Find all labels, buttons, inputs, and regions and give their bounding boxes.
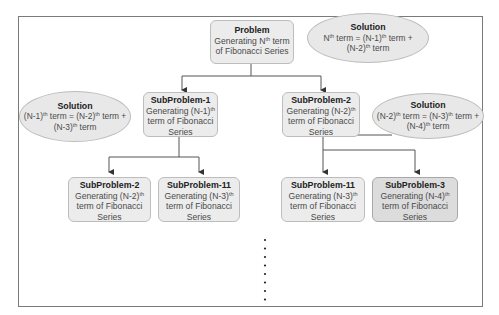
subproblem-line3: Series xyxy=(97,212,121,222)
subproblem-title: SubProblem-2 xyxy=(283,95,359,106)
solution-left-line1: (N-1)th term = (N-2)th term + xyxy=(20,111,130,122)
solution-left-line2: (N-3)th term xyxy=(20,122,130,133)
subproblem-line1: Generating (N-1)th xyxy=(146,106,215,116)
subproblem-3-node: SubProblem-3 Generating (N-4)th term of … xyxy=(372,177,458,222)
subproblem-line2: term of Fibonacci xyxy=(166,201,232,211)
subproblem-line1: Generating (N-3)th xyxy=(288,191,357,201)
subproblem-line2: term of Fibonacci xyxy=(148,116,214,126)
subproblem-title: SubProblem-3 xyxy=(373,180,457,191)
solution-right-line2: (N-4)th term xyxy=(373,121,483,132)
solution-top-line1: Nth term = (N-1)th term + xyxy=(308,33,428,44)
problem-line2: of Fibonacci Series xyxy=(215,46,288,56)
problem-line1: Generating Nth term xyxy=(214,36,289,46)
subproblem-line3: Series xyxy=(168,127,192,137)
subproblem-line2: term of Fibonacci xyxy=(288,116,354,126)
subproblem-title: SubProblem-2 xyxy=(69,180,150,191)
subproblem-line3: Series xyxy=(403,212,427,222)
subproblem-line3: Series xyxy=(311,212,335,222)
solution-right-title: Solution xyxy=(373,100,483,111)
problem-node: Problem Generating Nth term of Fibonacci… xyxy=(210,20,294,64)
subproblem-line1: Generating (N-2)th xyxy=(286,106,355,116)
subproblem-line2: term of Fibonacci xyxy=(382,201,448,211)
subproblem-line2: term of Fibonacci xyxy=(77,201,143,211)
subproblem-11-left-node: SubProblem-11 Generating (N-3)th term of… xyxy=(158,177,240,222)
subproblem-line1: Generating (N-2)th xyxy=(75,191,144,201)
subproblem-11-right-node: SubProblem-11 Generating (N-3)th term of… xyxy=(281,177,365,222)
solution-left-title: Solution xyxy=(20,101,130,112)
subproblem-title: SubProblem-1 xyxy=(144,95,217,106)
solution-top-line2: (N-2)th term xyxy=(308,43,428,54)
solution-top-title: Solution xyxy=(308,22,428,33)
subproblem-line2: term of Fibonacci xyxy=(290,201,356,211)
subproblem-title: SubProblem-11 xyxy=(282,180,364,191)
subproblem-title: SubProblem-11 xyxy=(159,180,239,191)
subproblem-line3: Series xyxy=(309,127,333,137)
solution-right-line1: (N-2)th term = (N-3)th term + xyxy=(373,111,483,122)
subproblem-line1: Generating (N-3)th xyxy=(164,191,233,201)
subproblem-line3: Series xyxy=(187,212,211,222)
subproblem-2-node: SubProblem-2 Generating (N-2)th term of … xyxy=(282,92,360,137)
problem-title: Problem xyxy=(211,25,293,36)
subproblem-2-left-node: SubProblem-2 Generating (N-2)th term of … xyxy=(68,177,151,222)
solution-left-ellipse: Solution (N-1)th term = (N-2)th term + (… xyxy=(19,91,131,142)
subproblem-1-node: SubProblem-1 Generating (N-1)th term of … xyxy=(143,92,218,137)
continuation-dots xyxy=(264,239,266,301)
solution-top-ellipse: Solution Nth term = (N-1)th term + (N-2)… xyxy=(307,13,429,63)
subproblem-line1: Generating (N-4)th xyxy=(380,191,449,201)
solution-right-ellipse: Solution (N-2)th term = (N-3)th term + (… xyxy=(372,93,484,139)
